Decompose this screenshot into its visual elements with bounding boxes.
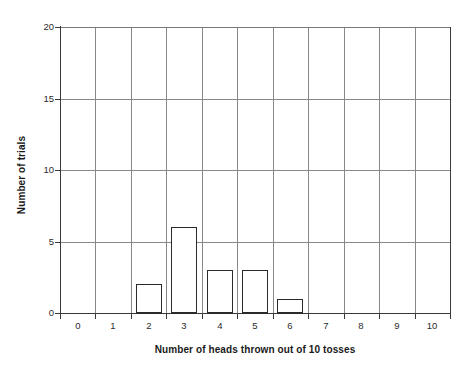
y-axis-tick-mark	[55, 313, 60, 314]
x-axis-tick-mark	[131, 314, 132, 319]
horizontal-gridline	[60, 170, 450, 171]
x-tick-label-1: 1	[93, 320, 133, 331]
bar-chart-figure: Number of trials Number of heads thrown …	[0, 0, 470, 373]
y-tick-label-15: 15	[14, 94, 54, 104]
x-axis-tick-mark	[415, 314, 416, 319]
x-axis-tick-mark	[95, 314, 96, 319]
x-axis-tick-mark	[166, 314, 167, 319]
bar-4	[207, 270, 233, 314]
x-tick-label-8: 8	[341, 320, 381, 331]
y-axis-tick-mark	[55, 99, 60, 100]
x-axis-tick-mark	[237, 314, 238, 319]
x-tick-label-4: 4	[200, 320, 240, 331]
x-tick-label-7: 7	[306, 320, 346, 331]
horizontal-gridline	[60, 99, 450, 100]
right-axis-line	[450, 27, 451, 314]
top-axis-line	[60, 27, 451, 28]
plot-area	[60, 27, 450, 313]
x-axis-tick-mark	[379, 314, 380, 319]
x-axis-tick-mark	[60, 314, 61, 319]
x-tick-label-2: 2	[129, 320, 169, 331]
x-axis-title: Number of heads thrown out of 10 tosses	[60, 344, 450, 355]
x-tick-label-0: 0	[58, 320, 98, 331]
x-tick-label-5: 5	[235, 320, 275, 331]
y-tick-label-0: 0	[14, 308, 54, 318]
left-axis-line	[60, 26, 61, 314]
horizontal-gridline	[60, 242, 450, 243]
x-axis-tick-mark	[202, 314, 203, 319]
plot-frame	[60, 27, 450, 313]
y-axis-tick-mark	[55, 27, 60, 28]
y-tick-label-10: 10	[14, 165, 54, 175]
x-tick-label-6: 6	[270, 320, 310, 331]
x-axis-tick-mark	[308, 314, 309, 319]
y-tick-label-5: 5	[14, 237, 54, 247]
bar-3	[171, 227, 197, 314]
x-tick-label-10: 10	[412, 320, 452, 331]
x-tick-label-9: 9	[377, 320, 417, 331]
bar-2	[136, 284, 162, 314]
x-axis-tick-mark	[450, 314, 451, 319]
x-axis-tick-mark	[344, 314, 345, 319]
y-tick-label-20: 20	[14, 22, 54, 32]
x-tick-label-3: 3	[164, 320, 204, 331]
y-axis-tick-labels: 05101520	[12, 27, 54, 313]
y-axis-tick-mark	[55, 170, 60, 171]
x-axis-tick-labels: 012345678910	[60, 320, 451, 334]
bar-5	[242, 270, 268, 314]
y-axis-tick-mark	[55, 242, 60, 243]
x-axis-tick-mark	[273, 314, 274, 319]
bar-6	[277, 299, 303, 314]
